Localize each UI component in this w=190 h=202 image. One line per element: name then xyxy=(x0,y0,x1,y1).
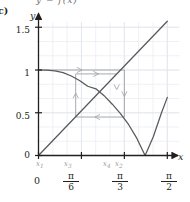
cobweb-plot xyxy=(0,0,190,202)
figure-panel: y = f(x) c) y x 1.5 1 0.5 0 0 π 6 π 3 π … xyxy=(0,0,190,202)
